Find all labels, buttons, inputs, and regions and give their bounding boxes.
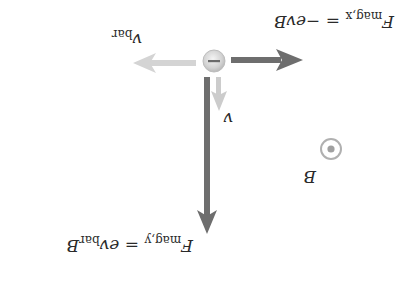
b-field-label: B: [304, 167, 318, 187]
b-field-out-of-page-icon: [321, 139, 341, 159]
magnetic-force-diagram: Fmag,x = −evB vbar v B Fmag,y = evbarB: [0, 0, 418, 282]
force-x-arrow: [231, 49, 303, 71]
v-bar-label: vbar: [112, 27, 142, 50]
svg-text:Fmag,x = −evB: Fmag,x = −evB: [274, 9, 395, 32]
electron-particle: [203, 50, 225, 72]
force-x-label: Fmag,x = −evB: [274, 9, 395, 32]
v-arrow: [211, 77, 227, 111]
v-bar-arrow: [133, 53, 196, 73]
v-label: v: [223, 109, 233, 129]
svg-text:B: B: [304, 167, 318, 187]
force-y-label: Fmag,y = evbarB: [67, 233, 194, 256]
svg-text:vbar: vbar: [112, 27, 142, 50]
minus-sign-icon: [208, 60, 220, 62]
svg-text:Fmag,y = evbarB: Fmag,y = evbarB: [67, 233, 194, 256]
force-y-arrow: [197, 77, 217, 234]
svg-text:v: v: [223, 109, 233, 129]
